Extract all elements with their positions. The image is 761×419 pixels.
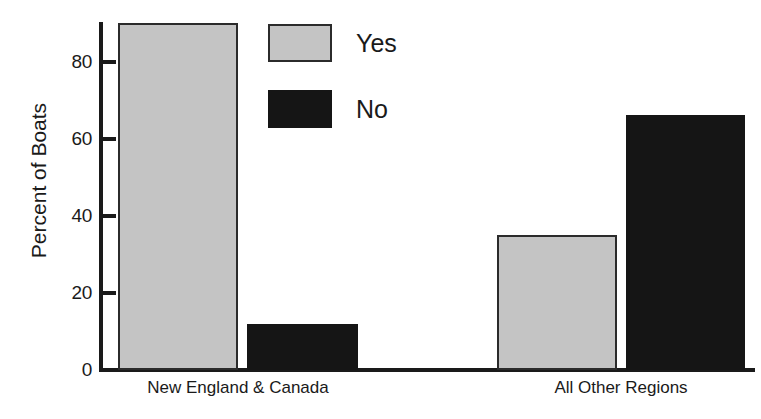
legend-label-yes: Yes	[356, 31, 397, 56]
legend-item-yes: Yes	[268, 24, 397, 62]
category-label-new-england: New England & Canada	[118, 379, 358, 397]
y-axis-line	[99, 22, 103, 372]
bar-all-other-yes	[497, 235, 617, 370]
category-label-all-other: All Other Regions	[497, 379, 745, 397]
bar-new-england-yes	[118, 23, 238, 370]
y-tick-60	[103, 137, 116, 141]
y-tick-label-80: 80	[48, 52, 92, 71]
legend-swatch-yes	[268, 24, 332, 62]
bar-all-other-no	[626, 115, 745, 370]
y-tick-20	[103, 291, 116, 295]
bar-new-england-no	[247, 324, 358, 370]
legend-swatch-no	[268, 90, 332, 128]
legend-item-no: No	[268, 90, 388, 128]
legend-label-no: No	[356, 97, 388, 122]
y-tick-label-0: 0	[48, 360, 92, 379]
bar-chart: Percent of Boats 80 60 40 20 0 Yes No	[0, 0, 761, 419]
y-tick-label-60: 60	[48, 129, 92, 148]
y-tick-label-40: 40	[48, 206, 92, 225]
y-tick-40	[103, 214, 116, 218]
y-axis-title: Percent of Boats	[28, 51, 49, 311]
y-tick-80	[103, 60, 116, 64]
y-tick-label-20: 20	[48, 283, 92, 302]
